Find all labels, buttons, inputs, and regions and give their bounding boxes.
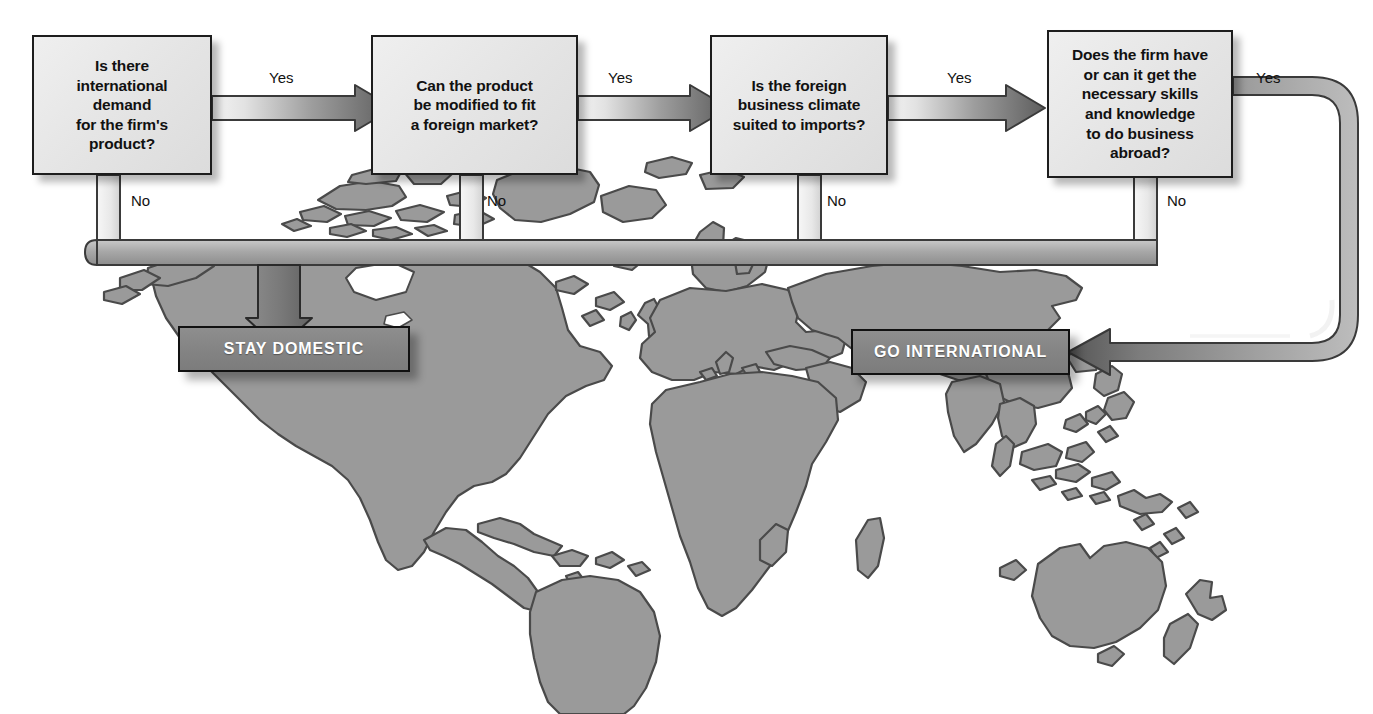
decision-4-line-5: to do business xyxy=(1072,124,1208,144)
terminal-stay-domestic-label: STAY DOMESTIC xyxy=(224,340,364,358)
terminal-go-international[interactable]: GO INTERNATIONAL xyxy=(851,329,1070,375)
edge-label-no-1: No xyxy=(131,192,150,209)
decision-2-line-3: a foreign market? xyxy=(411,115,539,135)
decision-1-line-4: for the firm's xyxy=(76,115,168,135)
decision-4-line-6: abroad? xyxy=(1072,143,1208,163)
decision-4-line-3: necessary skills xyxy=(1072,84,1208,104)
flowchart-canvas: Is there international demand for the fi… xyxy=(0,0,1373,714)
edge-label-no-2: No xyxy=(487,192,506,209)
decision-4-line-4: and knowledge xyxy=(1072,104,1208,124)
decision-2-line-1: Can the product xyxy=(411,76,539,96)
decision-1-line-1: Is there xyxy=(76,56,168,76)
decision-box-3[interactable]: Is the foreign business climate suited t… xyxy=(710,35,888,175)
decision-box-2[interactable]: Can the product be modified to fit a for… xyxy=(371,35,578,175)
terminal-go-international-label: GO INTERNATIONAL xyxy=(874,343,1047,361)
edge-label-no-3: No xyxy=(827,192,846,209)
decision-1-line-3: demand xyxy=(76,95,168,115)
decision-1-line-2: international xyxy=(76,76,168,96)
edge-label-no-4: No xyxy=(1167,192,1186,209)
edge-label-yes-4: Yes xyxy=(1256,69,1280,86)
decision-3-line-1: Is the foreign xyxy=(733,76,866,96)
decision-4-line-1: Does the firm have xyxy=(1072,45,1208,65)
edge-label-yes-3: Yes xyxy=(947,69,971,86)
decision-1-line-5: product? xyxy=(76,134,168,154)
edge-label-yes-1: Yes xyxy=(269,69,293,86)
edge-label-yes-2: Yes xyxy=(608,69,632,86)
decision-4-line-2: or can it get the xyxy=(1072,65,1208,85)
terminal-stay-domestic[interactable]: STAY DOMESTIC xyxy=(178,326,410,372)
decision-box-1[interactable]: Is there international demand for the fi… xyxy=(32,35,212,175)
decision-2-line-2: be modified to fit xyxy=(411,95,539,115)
decision-3-line-2: business climate xyxy=(733,95,866,115)
decision-3-line-3: suited to imports? xyxy=(733,115,866,135)
decision-box-4[interactable]: Does the firm have or can it get the nec… xyxy=(1047,30,1233,178)
